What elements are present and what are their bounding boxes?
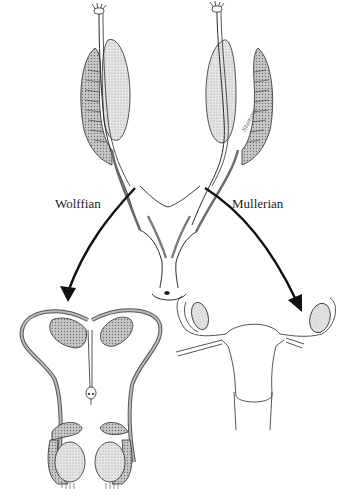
figure-canvas: Wolffian Mullerian Stamper — [0, 0, 355, 496]
mullerian-label: Mullerian — [232, 196, 283, 212]
wolffian-label: Wolffian — [55, 196, 101, 212]
male-derivatives — [22, 310, 161, 489]
female-derivatives — [176, 296, 336, 430]
indifferent-stage — [81, 1, 273, 300]
